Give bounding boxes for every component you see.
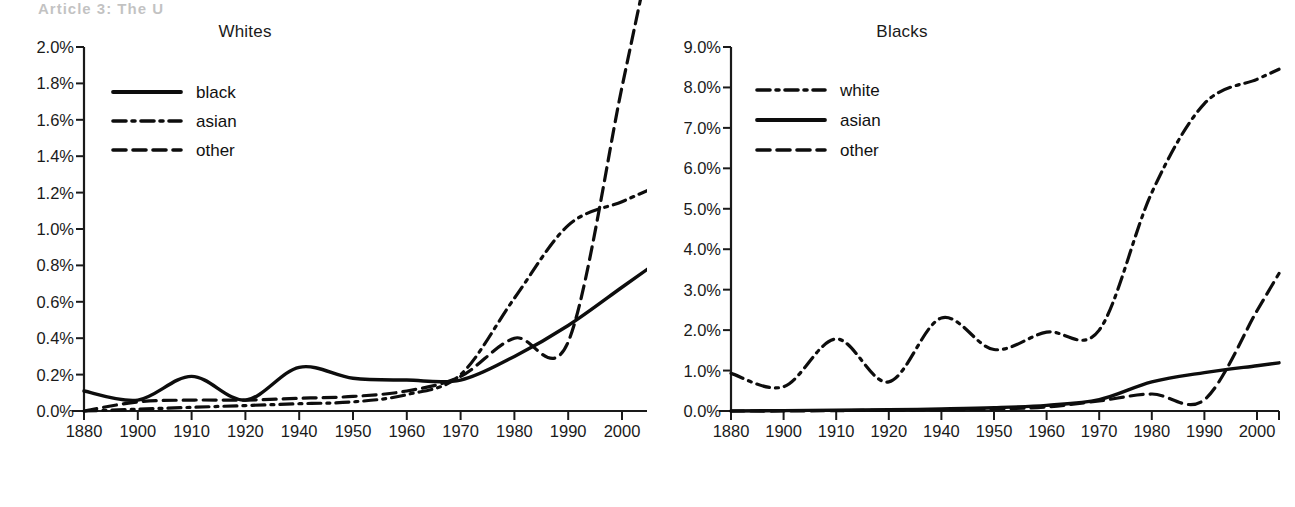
series-line-other	[84, 0, 647, 411]
y-axis-tick-label: 2.0%	[683, 321, 721, 339]
x-axis-tick-label: 1950	[335, 422, 372, 440]
y-axis-tick-label: 1.4%	[36, 147, 74, 165]
chart-panel-whites: Whites 0.0%0.2%0.4%0.6%0.8%1.0%1.2%1.4%1…	[0, 0, 647, 507]
y-axis-tick-label: 0.0%	[36, 402, 74, 420]
y-axis-tick-label: 3.0%	[683, 281, 721, 299]
x-axis-tick-label: 1980	[1133, 422, 1170, 440]
x-axis-tick-label: 1970	[442, 422, 479, 440]
legend-label-black: black	[196, 83, 236, 102]
x-axis-tick-label: 1990	[1186, 422, 1223, 440]
x-axis-tick-label: 1960	[1028, 422, 1065, 440]
y-axis-tick-label: 0.2%	[36, 366, 74, 384]
x-axis-tick-label: 1900	[765, 422, 802, 440]
x-axis-tick-label: 1880	[66, 422, 103, 440]
y-axis-tick-label: 5.0%	[683, 200, 721, 218]
y-axis-tick-label: 9.0%	[683, 38, 721, 56]
x-axis-tick-label: 1900	[119, 422, 156, 440]
y-axis-tick-label: 1.2%	[36, 184, 74, 202]
series-line-black	[84, 267, 647, 400]
legend-label-white: white	[839, 81, 880, 100]
x-axis-tick-label: 1960	[388, 422, 425, 440]
x-axis-tick-label: 1990	[550, 422, 587, 440]
x-axis-tick-label: 1920	[227, 422, 264, 440]
x-axis-tick-label: 2000	[1239, 422, 1276, 440]
x-axis-tick-label: 1980	[496, 422, 533, 440]
y-axis-tick-label: 6.0%	[683, 159, 721, 177]
x-axis-tick-label: 1920	[870, 422, 907, 440]
y-axis-tick-label: 1.0%	[683, 362, 721, 380]
x-axis-tick-label: 1950	[976, 422, 1013, 440]
y-axis-tick-label: 0.6%	[36, 293, 74, 311]
y-axis-tick-label: 1.6%	[36, 111, 74, 129]
legend-label-other: other	[196, 141, 235, 160]
charts-row: Whites 0.0%0.2%0.4%0.6%0.8%1.0%1.2%1.4%1…	[0, 0, 1295, 507]
x-axis-tick-label: 1970	[1081, 422, 1118, 440]
series-line-other	[731, 273, 1279, 411]
chart-canvas-whites: 0.0%0.2%0.4%0.6%0.8%1.0%1.2%1.4%1.6%1.8%…	[0, 0, 647, 507]
y-axis-tick-label: 1.0%	[36, 220, 74, 238]
x-axis-tick-label: 1910	[173, 422, 210, 440]
x-axis-tick-label: 1910	[818, 422, 855, 440]
x-axis-tick-label: 1880	[713, 422, 750, 440]
chart-canvas-blacks: 0.0%1.0%2.0%3.0%4.0%5.0%6.0%7.0%8.0%9.0%…	[647, 0, 1294, 507]
y-axis-tick-label: 0.8%	[36, 256, 74, 274]
legend-label-asian: asian	[196, 112, 237, 131]
chart-panel-blacks: Blacks 0.0%1.0%2.0%3.0%4.0%5.0%6.0%7.0%8…	[647, 0, 1294, 507]
legend-label-other: other	[840, 141, 879, 160]
y-axis-tick-label: 0.4%	[36, 329, 74, 347]
y-axis-tick-label: 4.0%	[683, 240, 721, 258]
y-axis-tick-label: 1.8%	[36, 74, 74, 92]
x-axis-tick-label: 2000	[604, 422, 641, 440]
y-axis-tick-label: 0.0%	[683, 402, 721, 420]
y-axis-tick-label: 7.0%	[683, 119, 721, 137]
x-axis-tick-label: 1940	[281, 422, 318, 440]
legend-label-asian: asian	[840, 111, 881, 130]
y-axis-tick-label: 8.0%	[683, 78, 721, 96]
x-axis-tick-label: 1940	[923, 422, 960, 440]
series-line-white	[731, 69, 1279, 388]
y-axis-tick-label: 2.0%	[36, 38, 74, 56]
